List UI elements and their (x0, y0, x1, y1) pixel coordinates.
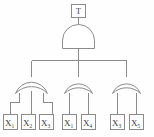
fault-tree-diagram: T (0, 0, 154, 137)
or-gate-middle-shape[interactable] (65, 84, 93, 94)
top-event-label: T (76, 7, 81, 16)
and-gate-top[interactable] (63, 25, 95, 49)
and-gate-top-shape[interactable] (63, 25, 95, 49)
basic-event-box[interactable]: X1 (4, 115, 18, 130)
basic-event-box[interactable]: X3 (40, 115, 54, 130)
basic-event-box[interactable]: X1 (63, 115, 77, 130)
wire-left-or-in3 (44, 93, 53, 115)
or-gate-right[interactable] (113, 84, 141, 94)
or-gate-middle[interactable] (65, 84, 93, 94)
basic-event-box[interactable]: X2 (22, 115, 36, 130)
top-event[interactable]: T (72, 5, 86, 18)
or-gate-right-shape[interactable] (113, 84, 141, 94)
basic-event-box[interactable]: X4 (82, 115, 96, 130)
fault-tree-canvas: T (0, 0, 154, 137)
basic-event-box[interactable]: X5 (130, 115, 144, 130)
basic-event-box[interactable]: X3 (111, 115, 125, 130)
wire-left-or-in1 (11, 93, 20, 115)
